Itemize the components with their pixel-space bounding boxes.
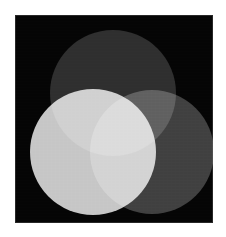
plot-panel [15, 15, 213, 223]
figure-root [0, 0, 226, 237]
venn-circle-right [90, 90, 213, 214]
